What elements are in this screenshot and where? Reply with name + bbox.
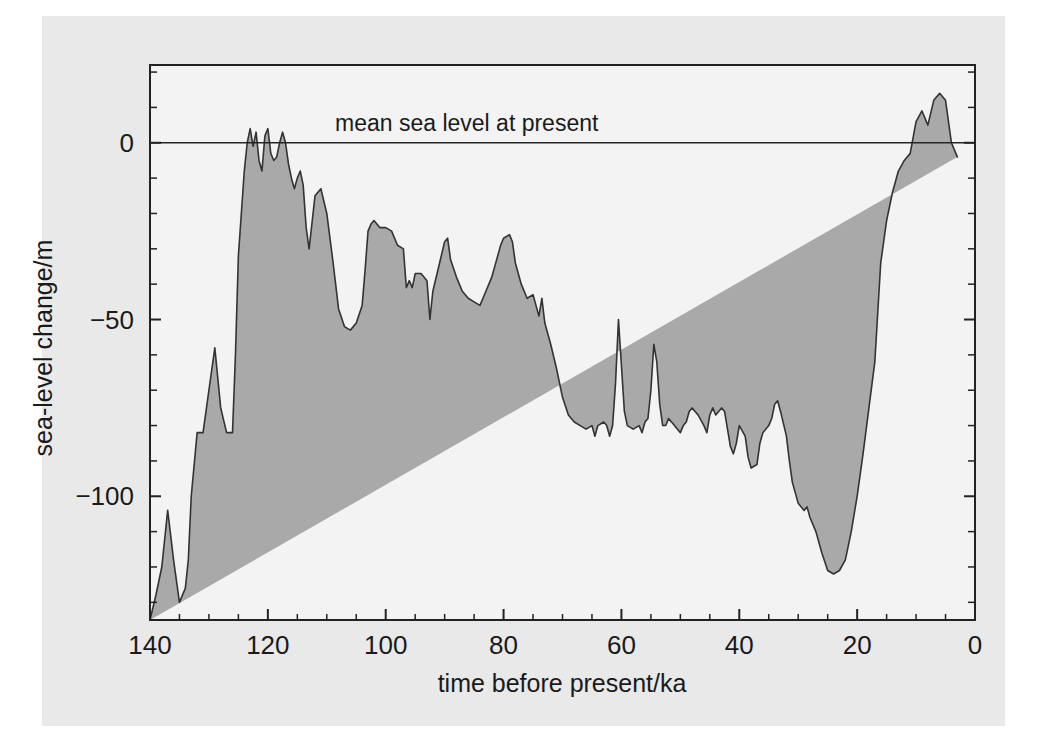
sea-level-chart: 140120100806040200 0−50−100 mean sea lev… xyxy=(0,0,1052,742)
x-axis-tick-label: 140 xyxy=(128,630,171,660)
x-axis-tick-label: 40 xyxy=(725,630,754,660)
x-axis-tick-label: 20 xyxy=(843,630,872,660)
x-axis-tick-label: 120 xyxy=(246,630,289,660)
plot-stage: 140120100806040200 0−50−100 mean sea lev… xyxy=(0,0,1052,742)
x-axis-tick-label: 80 xyxy=(489,630,518,660)
y-axis-tick-label: 0 xyxy=(120,128,134,158)
y-axis-tick-labels: 0−50−100 xyxy=(75,128,134,512)
x-axis-tick-label: 100 xyxy=(364,630,407,660)
x-axis-title: time before present/ka xyxy=(438,669,687,697)
x-axis-tick-labels: 140120100806040200 xyxy=(128,630,982,660)
mean-sea-level-annotation-label: mean sea level at present xyxy=(335,110,599,136)
x-axis-tick-label: 0 xyxy=(968,630,982,660)
figure-root: 140120100806040200 0−50−100 mean sea lev… xyxy=(0,0,1052,742)
y-axis-tick-label: −100 xyxy=(75,481,134,511)
y-axis-title: sea-level change/m xyxy=(29,240,57,457)
x-axis-tick-label: 60 xyxy=(607,630,636,660)
y-axis-tick-label: −50 xyxy=(90,305,134,335)
